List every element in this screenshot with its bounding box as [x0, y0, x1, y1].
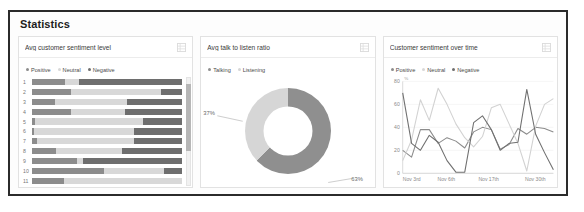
card-title: Avg talk to listen ratio — [207, 44, 359, 51]
bar-segment-positive[interactable] — [32, 148, 56, 154]
bar-track — [32, 148, 182, 154]
bar-segment-negative[interactable] — [134, 128, 182, 134]
legend-dot-listening — [238, 68, 241, 71]
bar-track — [32, 89, 182, 95]
bar-segment-positive[interactable] — [32, 99, 55, 105]
legend-label-negative: Negative — [457, 67, 479, 73]
bar-segment-positive[interactable] — [32, 89, 71, 95]
bar-row[interactable]: 2 — [23, 88, 185, 96]
legend-label-neutral: Neutral — [63, 67, 81, 73]
x-axis-tick-label: Nov 30th — [525, 177, 546, 182]
bar-track — [32, 178, 182, 184]
bar-segment-neutral[interactable] — [34, 128, 135, 134]
legend-item-listening: Listening — [238, 67, 265, 73]
bar-segment-negative[interactable] — [125, 109, 182, 115]
bar-segment-neutral[interactable] — [35, 118, 143, 124]
legend-item-talking: Talking — [208, 67, 230, 73]
donut-label-talking: 63% — [351, 176, 363, 182]
bar-segment-neutral[interactable] — [104, 168, 164, 174]
legend-label-positive: Positive — [396, 67, 416, 73]
scrollbar-thumb[interactable] — [186, 84, 191, 152]
legend-dot-negative — [452, 68, 455, 71]
bar-row[interactable]: 6 — [23, 127, 185, 135]
bar-segment-neutral[interactable] — [56, 148, 122, 154]
y-axis-tick-label: 60 — [394, 102, 400, 107]
x-axis-tick-label: Nov 17th — [478, 177, 499, 182]
bar-row-label: 9 — [23, 158, 32, 164]
bar-row[interactable]: 1 — [23, 78, 185, 86]
bar-segment-positive[interactable] — [32, 158, 77, 164]
donut-hole — [263, 107, 312, 156]
bar-row[interactable]: 7 — [23, 137, 185, 145]
line-chart-svg[interactable]: 020406080%Nov 3rdNov 6thNov 17thNov 30th — [384, 74, 557, 188]
bar-row[interactable]: 3 — [23, 98, 185, 106]
bar-segment-neutral[interactable] — [64, 178, 183, 184]
bar-row[interactable]: 8 — [23, 147, 185, 155]
bar-segment-negative[interactable] — [161, 89, 182, 95]
bar-row-label: 4 — [23, 109, 32, 115]
bar-track — [32, 168, 182, 174]
grid-icon[interactable] — [177, 43, 186, 52]
bar-row[interactable]: 9 — [23, 157, 185, 165]
bar-row[interactable]: 4 — [23, 108, 185, 116]
chart-scrollbar[interactable] — [185, 77, 192, 186]
legend-dot-positive — [391, 68, 394, 71]
donut-label-listening: 37% — [203, 110, 215, 116]
card-title: Customer sentiment over time — [390, 44, 542, 51]
grid-icon[interactable] — [360, 43, 369, 52]
bar-row[interactable]: 5 — [23, 117, 185, 125]
bar-segment-negative[interactable] — [83, 158, 182, 164]
card-avg-customer-sentiment-level: Avg customer sentiment level Positive — [18, 36, 193, 188]
bar-segment-neutral[interactable] — [71, 109, 125, 115]
card-body: Positive Neutral Negative 1234567891011 — [19, 58, 192, 188]
y-axis-unit-label: % — [404, 76, 408, 81]
donut-ring[interactable] — [245, 88, 331, 174]
card-header: Avg talk to listen ratio — [201, 37, 374, 58]
statistics-panel: Statistics Avg customer sentiment level — [8, 10, 568, 196]
bar-row-label: 1 — [23, 79, 32, 85]
card-body: Talking Listening 37% 63% — [201, 58, 374, 188]
y-axis-tick-label: 20 — [394, 148, 400, 153]
bar-row[interactable]: 11 — [23, 177, 185, 185]
x-axis-tick-label: Nov 3rd — [402, 177, 420, 182]
bar-segment-negative[interactable] — [122, 148, 182, 154]
bar-row-label: 7 — [23, 138, 32, 144]
bar-segment-neutral[interactable] — [55, 99, 127, 105]
legend-sentiment-level: Positive Neutral Negative — [19, 58, 192, 77]
legend-label-talking: Talking — [213, 67, 230, 73]
bar-row-label: 8 — [23, 148, 32, 154]
bar-segment-positive[interactable] — [32, 79, 65, 85]
bar-segment-neutral[interactable] — [71, 89, 161, 95]
card-header: Avg customer sentiment level — [19, 37, 192, 58]
donut-leader-talking — [328, 178, 352, 183]
bar-segment-neutral[interactable] — [37, 138, 135, 144]
bar-segment-positive[interactable] — [32, 168, 104, 174]
bar-segment-negative[interactable] — [127, 99, 183, 105]
bar-track — [32, 138, 182, 144]
legend-label-listening: Listening — [243, 67, 265, 73]
legend-dot-neutral — [422, 68, 425, 71]
page-title: Statistics — [20, 18, 70, 30]
bar-segment-neutral[interactable] — [65, 79, 79, 85]
bar-segment-negative[interactable] — [143, 118, 182, 124]
legend-dot-negative — [88, 68, 91, 71]
y-axis-tick-label: 0 — [397, 171, 400, 176]
y-axis-tick-label: 80 — [394, 79, 400, 84]
bar-segment-negative[interactable] — [134, 138, 182, 144]
legend-item-positive: Positive — [391, 67, 416, 73]
bar-segment-negative[interactable] — [79, 79, 183, 85]
bar-row[interactable]: 10 — [23, 167, 185, 175]
legend-dot-neutral — [58, 68, 61, 71]
grid-icon[interactable] — [542, 43, 551, 52]
bar-segment-positive[interactable] — [32, 109, 71, 115]
bar-track — [32, 99, 182, 105]
card-body: Positive Neutral Negative 020406080%Nov … — [384, 58, 557, 188]
legend-item-negative: Negative — [88, 67, 115, 73]
bar-track — [32, 109, 182, 115]
card-customer-sentiment-over-time: Customer sentiment over time Positive — [383, 36, 558, 188]
bar-row-label: 2 — [23, 89, 32, 95]
bar-segment-positive[interactable] — [32, 178, 64, 184]
bar-row-label: 10 — [23, 168, 32, 174]
bar-segment-negative[interactable] — [164, 168, 182, 174]
bar-row-label: 11 — [23, 178, 32, 184]
